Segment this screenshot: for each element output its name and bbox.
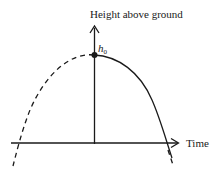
initial-height-label: h0: [98, 42, 108, 56]
y-axis-label: Height above ground: [90, 8, 183, 20]
dashed-projected-curve: [13, 55, 94, 166]
trajectory-diagram: h0 Height above ground Time: [0, 0, 220, 179]
x-axis-label: Time: [186, 137, 209, 149]
initial-height-point: [92, 52, 98, 58]
